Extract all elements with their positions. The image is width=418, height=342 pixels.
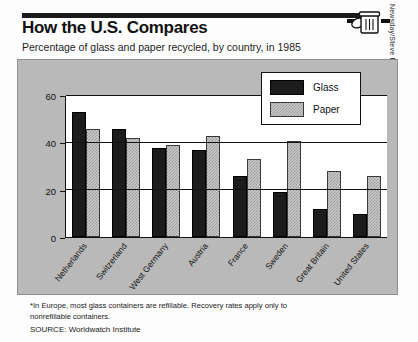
x-axis-label-cell: United States bbox=[347, 238, 387, 294]
trash-can-icon bbox=[345, 6, 391, 36]
x-axis-labels: NetherlandsSwitzerlandWest GermanyAustri… bbox=[65, 238, 387, 294]
x-axis-label-cell: Austria bbox=[186, 238, 226, 294]
y-axis-label: 40 bbox=[34, 138, 56, 149]
legend-item-paper: Paper bbox=[270, 102, 340, 117]
legend-swatch-paper bbox=[270, 102, 304, 117]
x-axis-label-cell: West Germany bbox=[146, 238, 186, 294]
chart-legend: Glass Paper bbox=[261, 72, 361, 125]
y-axis-label: 20 bbox=[34, 185, 56, 196]
legend-label-paper: Paper bbox=[313, 104, 340, 115]
bar-glass bbox=[273, 192, 287, 237]
gridline bbox=[66, 189, 387, 190]
bar-glass bbox=[112, 129, 126, 237]
bar-glass bbox=[313, 209, 327, 237]
y-axis-tick bbox=[60, 191, 65, 192]
bar-glass bbox=[192, 150, 206, 237]
chart-panel: 0204060 NetherlandsSwitzerlandWest Germa… bbox=[17, 59, 398, 295]
x-axis-label-cell: Sweden bbox=[266, 238, 306, 294]
page-subtitle: Percentage of glass and paper recycled, … bbox=[22, 41, 301, 53]
bar-glass bbox=[152, 148, 166, 237]
y-axis-tick bbox=[60, 143, 65, 144]
bar-glass bbox=[233, 176, 247, 237]
page-title: How the U.S. Compares bbox=[22, 18, 207, 38]
chart-source: SOURCE: Worldwatch Institute bbox=[30, 325, 141, 334]
legend-item-glass: Glass bbox=[270, 80, 339, 95]
x-axis-label-cell: Netherlands bbox=[65, 238, 105, 294]
chart-footnote: *In Europe, most glass containers are re… bbox=[30, 300, 330, 322]
bar-glass bbox=[72, 112, 86, 237]
y-axis-label: 0 bbox=[34, 233, 56, 244]
infographic-page: Newsday/Steve Madden How the U.S. Compar… bbox=[0, 0, 418, 342]
y-axis-tick bbox=[60, 96, 65, 97]
x-axis-label-cell: France bbox=[226, 238, 266, 294]
gridline bbox=[66, 142, 387, 143]
legend-label-glass: Glass bbox=[313, 82, 339, 93]
y-axis-label: 60 bbox=[34, 91, 56, 102]
legend-swatch-glass bbox=[270, 80, 304, 95]
bar-glass bbox=[353, 214, 367, 238]
